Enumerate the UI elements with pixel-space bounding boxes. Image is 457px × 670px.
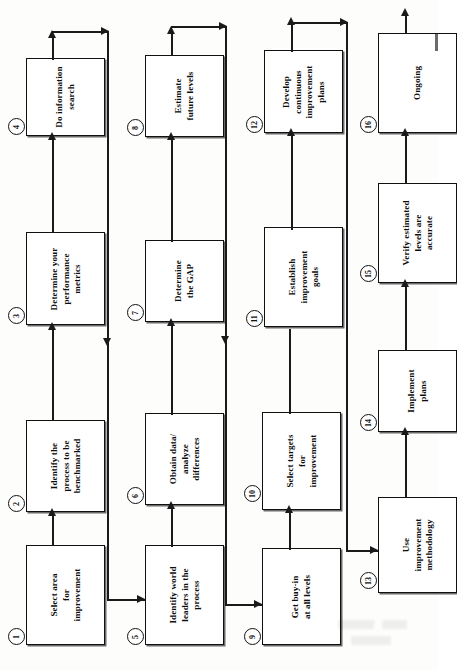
connector-12-13-top (291, 22, 347, 24)
flow-node-8[interactable]: Estimatefuture levels (145, 55, 224, 137)
connector-2-3 (52, 328, 54, 421)
connector-15-16 (405, 135, 407, 184)
step-number-9: 9 (244, 628, 261, 645)
flow-node-1[interactable]: Select areaforimprovement (26, 545, 105, 645)
arrowhead-16-out (401, 8, 409, 16)
connector-3-4 (52, 138, 54, 233)
flow-node-6[interactable]: Obtain data/analyzedifferences (145, 413, 224, 505)
scan-edge-mark (435, 34, 438, 51)
arrowhead-8-9-mid (221, 336, 229, 344)
connector-1-2 (52, 514, 54, 546)
flow-node-14-label: Implementplans (406, 369, 429, 412)
step-number-4: 4 (8, 118, 25, 135)
flow-node-2[interactable]: Identify theprocess to bebenchmarked (26, 420, 105, 512)
flow-node-13-label: Useimprovementmethodology (400, 519, 435, 572)
arrowhead-8-9-in (254, 600, 262, 608)
flow-node-12[interactable]: Developcontinuousimprovementplans (264, 50, 343, 133)
flow-node-2-label: Identify theprocess to bebenchmarked (48, 439, 83, 494)
connector-5-6 (171, 508, 173, 547)
connector-4-5-down (107, 31, 109, 601)
step-number-14: 14 (360, 414, 377, 431)
connector-11-12 (291, 135, 293, 230)
arrowhead-4-5-in (137, 595, 145, 603)
connector-8-9-top (171, 26, 226, 28)
flow-node-10-label: Select targetsforimprovement (284, 434, 319, 487)
arrowhead-12-13-in (370, 546, 378, 554)
connector-8-9-down (225, 26, 227, 606)
step-number-8: 8 (127, 119, 144, 136)
flow-node-5[interactable]: Identify worldleaders in theprocess (145, 545, 224, 645)
arrowhead-13-14 (401, 427, 409, 435)
step-number-1: 1 (8, 628, 25, 645)
arrowhead-14-15 (401, 279, 409, 287)
flow-node-9[interactable]: Get buy-inat all levels (262, 548, 341, 645)
flow-node-1-label: Select areaforimprovement (48, 569, 83, 622)
flow-node-15-label: Verify estimatedlevels areaccurate (400, 200, 435, 265)
step-number-6: 6 (127, 487, 144, 504)
arrowhead-12-up (287, 17, 295, 25)
connector-6-7 (171, 325, 173, 415)
flow-node-6-label: Obtain data/analyzedifferences (167, 434, 202, 484)
step-number-15: 15 (360, 265, 377, 282)
connector-4-5-top (52, 31, 108, 33)
connector-7-8 (171, 139, 173, 242)
connector-10-11 (289, 329, 291, 414)
step-number-2: 2 (8, 495, 25, 512)
flow-node-3[interactable]: Determine yourperformancemetrics (26, 232, 105, 325)
arrowhead-3-4 (48, 132, 56, 140)
step-number-16: 16 (360, 116, 377, 133)
flow-node-11[interactable]: Establishimprovementgoals (264, 227, 343, 327)
flow-node-15[interactable]: Verify estimatedlevels areaccurate (378, 183, 457, 283)
flow-node-16[interactable]: Ongoing (378, 33, 457, 133)
step-number-13: 13 (360, 572, 377, 589)
step-number-12: 12 (246, 116, 263, 133)
arrowhead-2-3 (48, 322, 56, 330)
flow-node-3-label: Determine yourperformancemetrics (48, 247, 83, 310)
flow-node-16-label: Ongoing (412, 66, 424, 100)
flow-node-10[interactable]: Select targetsforimprovement (262, 412, 341, 510)
scan-bleedthrough (338, 606, 434, 664)
arrowhead-1-2 (48, 508, 56, 516)
connector-12-13-up (291, 24, 293, 52)
flow-node-14[interactable]: Implementplans (378, 350, 457, 432)
arrowhead-5-6 (167, 501, 175, 509)
flow-node-9-label: Get buy-inat all levels (290, 574, 313, 618)
connector-16-out (405, 15, 407, 34)
arrowhead-7-8 (167, 132, 175, 140)
connector-14-15 (405, 286, 407, 351)
arrowhead-15-16 (401, 128, 409, 136)
connector-9-10 (289, 512, 291, 550)
flow-node-13[interactable]: Useimprovementmethodology (378, 497, 457, 593)
flow-node-4-label: Do informationsearch (54, 66, 77, 127)
connector-4-5-up (52, 38, 54, 60)
connector-13-14 (405, 434, 407, 498)
connector-8-9-up (171, 33, 173, 56)
flow-node-7-label: Determinethe GAP (173, 260, 196, 302)
flow-node-7[interactable]: Determinethe GAP (145, 240, 224, 322)
step-number-5: 5 (127, 628, 144, 645)
step-number-7: 7 (127, 304, 144, 321)
flow-node-8-label: Estimatefuture levels (173, 72, 196, 121)
step-number-10: 10 (244, 485, 261, 502)
arrowhead-11-12 (287, 128, 295, 136)
flow-node-12-label: Developcontinuousimprovementplans (280, 65, 326, 118)
arrowhead-6-7 (167, 318, 175, 326)
step-number-3: 3 (8, 307, 25, 324)
flow-node-11-label: Establishimprovementgoals (286, 251, 321, 304)
flow-node-4[interactable]: Do informationsearch (26, 58, 105, 136)
arrowhead-4-5-mid (103, 338, 111, 346)
flow-node-5-label: Identify worldleaders in theprocess (167, 566, 202, 623)
step-number-11: 11 (246, 310, 263, 327)
connector-12-13-down (346, 22, 348, 552)
arrowhead-9-10 (285, 505, 293, 513)
